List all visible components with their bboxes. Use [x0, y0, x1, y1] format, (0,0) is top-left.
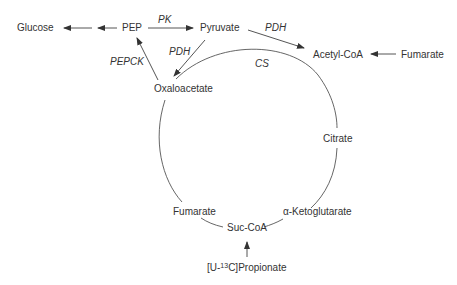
- node-acetyl-coa: Acetyl-CoA: [313, 49, 363, 61]
- enzyme-pk: PK: [158, 14, 171, 26]
- cycle-arc-fumarate-oxaloacetate: [159, 100, 182, 202]
- node-pep: PEP: [122, 22, 142, 34]
- node-suc-coa: Suc-CoA: [227, 222, 267, 234]
- enzyme-pdh-left: PDH: [169, 46, 190, 58]
- enzyme-pepck: PEPCK: [110, 56, 144, 68]
- node-alpha-ketoglutarate: α-Ketoglutarate: [283, 206, 352, 218]
- enzyme-pdh-top: PDH: [265, 22, 286, 34]
- node-fumarate: Fumarate: [173, 206, 216, 218]
- pathway-arrows: [0, 0, 457, 285]
- enzyme-cs: CS: [255, 58, 269, 70]
- node-citrate: Citrate: [323, 133, 352, 145]
- node-glucose: Glucose: [17, 22, 54, 34]
- cycle-arc-succoa-fumarate: [201, 218, 223, 227]
- node-fumarate-input: Fumarate: [401, 49, 444, 61]
- cycle-arc-citrate-akg: [311, 148, 337, 208]
- node-pyruvate: Pyruvate: [200, 22, 239, 34]
- node-oxaloacetate: Oxaloacetate: [154, 83, 213, 95]
- node-propionate: [U-13C]Propionate: [207, 262, 287, 274]
